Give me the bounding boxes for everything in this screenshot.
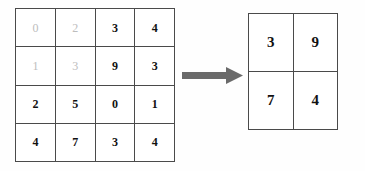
output-cell: 4 <box>294 72 339 130</box>
input-cell: 1 <box>16 47 56 85</box>
input-cell: 3 <box>135 47 175 85</box>
output-cell: 3 <box>249 14 294 72</box>
input-cell: 4 <box>135 9 175 47</box>
output-cell: 9 <box>294 14 339 72</box>
input-cell: 1 <box>135 86 175 124</box>
input-cell: 0 <box>96 86 136 124</box>
input-cell: 2 <box>16 86 56 124</box>
output-cell: 7 <box>249 72 294 130</box>
input-cell: 2 <box>56 9 96 47</box>
right-arrow-icon <box>182 66 244 85</box>
input-cell: 3 <box>96 9 136 47</box>
input-cell: 4 <box>16 124 56 162</box>
input-cell: 0 <box>16 9 56 47</box>
input-cell: 7 <box>56 124 96 162</box>
input-cell: 3 <box>56 47 96 85</box>
output-feature-map-grid: 3974 <box>248 13 338 130</box>
input-cell: 4 <box>135 124 175 162</box>
input-cell: 3 <box>96 124 136 162</box>
input-feature-map-grid: 0234139325014734 <box>15 8 175 162</box>
input-cell: 9 <box>96 47 136 85</box>
input-cell: 5 <box>56 86 96 124</box>
